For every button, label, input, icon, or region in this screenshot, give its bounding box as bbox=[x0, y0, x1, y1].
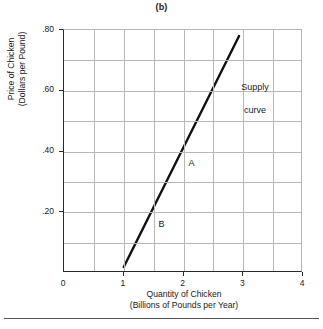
gridline-vertical bbox=[243, 30, 244, 271]
y-axis-label: Price of Chicken (Dollars per Pound) bbox=[6, 0, 28, 144]
x-axis-tick-label: 2 bbox=[173, 278, 193, 288]
panel-title: (b) bbox=[0, 2, 323, 12]
gridline-horizontal bbox=[64, 60, 301, 61]
y-axis-tick-mark bbox=[59, 90, 63, 91]
gridline-vertical bbox=[154, 30, 155, 271]
supply-curve-annotation: Supply curve bbox=[241, 70, 269, 128]
plot-area bbox=[63, 29, 302, 272]
gridline-vertical bbox=[184, 30, 185, 271]
x-axis-tick-label: 0 bbox=[53, 278, 73, 288]
x-axis-tick-label: 3 bbox=[232, 278, 252, 288]
y-axis-tick-mark bbox=[59, 211, 63, 212]
x-axis-label-line1: Quantity of Chicken bbox=[45, 289, 323, 300]
supply-curve-figure: (b) .80.60.40.2001234 Price of Chicken (… bbox=[0, 0, 323, 329]
y-axis-tick-label: .40 bbox=[0, 145, 58, 155]
point-b-label: B bbox=[159, 219, 165, 229]
x-axis-tick-label: 1 bbox=[113, 278, 133, 288]
y-axis-label-line1: Price of Chicken bbox=[6, 0, 17, 144]
x-axis-label: Quantity of Chicken (Billions of Pounds … bbox=[45, 289, 323, 311]
gridline-horizontal bbox=[64, 212, 301, 213]
gridline-horizontal bbox=[64, 152, 301, 153]
figure-bottom-rule bbox=[4, 318, 319, 319]
x-axis-label-line2: (Billions of Pounds per Year) bbox=[45, 300, 323, 311]
x-axis-tick-mark bbox=[183, 272, 184, 276]
gridline-horizontal bbox=[64, 182, 301, 183]
y-axis-tick-mark bbox=[59, 29, 63, 30]
x-axis-tick-mark bbox=[123, 272, 124, 276]
gridline-horizontal bbox=[64, 243, 301, 244]
gridline-vertical bbox=[273, 30, 274, 271]
y-axis-tick-label: .20 bbox=[0, 206, 58, 216]
x-axis-tick-label: 4 bbox=[292, 278, 312, 288]
gridline-vertical bbox=[94, 30, 95, 271]
gridline-vertical bbox=[213, 30, 214, 271]
point-a-label: A bbox=[188, 158, 194, 168]
supply-curve-annotation-line1: Supply bbox=[241, 82, 269, 94]
y-axis-tick-mark bbox=[59, 151, 63, 152]
x-axis-tick-mark bbox=[302, 272, 303, 276]
gridline-vertical bbox=[124, 30, 125, 271]
x-axis-tick-mark bbox=[242, 272, 243, 276]
y-axis-label-line2: (Dollars per Pound) bbox=[17, 0, 28, 144]
supply-curve-annotation-line2: curve bbox=[241, 105, 269, 117]
